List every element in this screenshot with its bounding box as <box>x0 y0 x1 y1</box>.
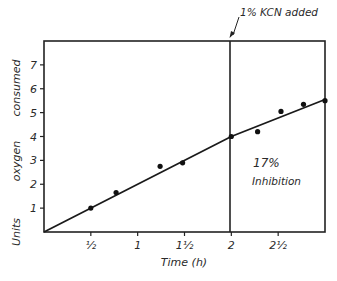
oxygen-consumption-chart: 1234567 ½11½22½ 1% KCN added 17% Inhibit… <box>0 0 337 281</box>
inhibition-percent: 17% <box>253 156 280 170</box>
y-axis-ticks: 1234567 <box>30 59 44 215</box>
kcn-annotation: 1% KCN added <box>240 6 318 18</box>
y-tick-label: 7 <box>30 59 37 72</box>
data-point <box>278 109 283 114</box>
x-tick-label: 1½ <box>176 239 194 252</box>
data-point <box>180 160 185 165</box>
y-tick-label: 1 <box>30 202 37 215</box>
y-tick-label: 3 <box>30 154 37 167</box>
data-point <box>301 102 306 107</box>
data-point <box>322 98 327 103</box>
plot-frame <box>44 41 325 232</box>
inhibition-label: Inhibition <box>252 175 301 187</box>
x-tick-label: 1 <box>134 239 141 252</box>
y-tick-label: 4 <box>30 131 37 144</box>
x-tick-label: 2½ <box>269 239 287 252</box>
fit-line-path <box>44 100 325 233</box>
y-axis-label-units: Units <box>10 218 23 246</box>
y-axis-label-oxygen: oxygen <box>10 141 23 181</box>
data-point <box>114 190 119 195</box>
y-tick-label: 6 <box>30 83 37 96</box>
data-point <box>88 206 93 211</box>
y-tick-label: 2 <box>30 178 37 191</box>
data-point <box>255 129 260 134</box>
y-axis-label: Units oxygen consumed <box>10 59 23 247</box>
x-axis-ticks: ½11½22½ <box>85 232 287 252</box>
x-tick-label: 2 <box>228 239 235 252</box>
x-tick-label: ½ <box>85 239 96 252</box>
y-axis-label-consumed: consumed <box>10 59 23 117</box>
y-tick-label: 5 <box>30 107 37 120</box>
data-point <box>158 164 163 169</box>
data-point <box>229 134 234 139</box>
x-axis-label: Time (h) <box>161 256 207 269</box>
data-points <box>88 98 327 211</box>
fitted-line <box>44 100 325 233</box>
